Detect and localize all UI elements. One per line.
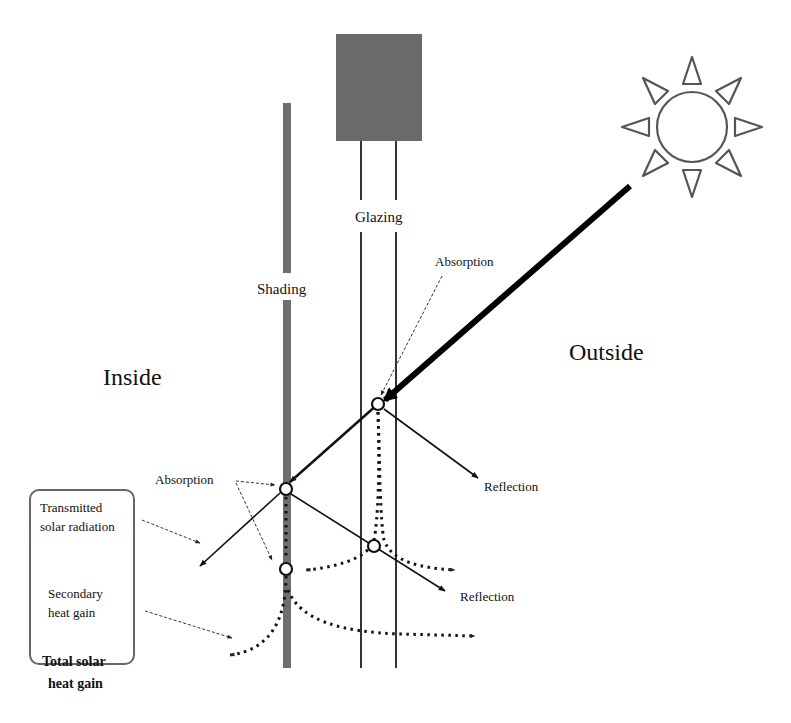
glazing-reflection-arrow [384, 409, 478, 478]
interaction-nodes [280, 398, 384, 575]
shading-secondary-node [280, 563, 292, 575]
absorption-glazing-label: Absorption [435, 254, 494, 269]
incident-solar-beam [385, 186, 630, 400]
glazing-node [372, 398, 384, 410]
transmitted-label-line1: Transmitted [40, 500, 103, 515]
total-label-line1: Total solar [42, 654, 106, 669]
glazing-frame [336, 34, 422, 141]
legend-pointers [142, 520, 232, 638]
glazing-label: Glazing [355, 209, 403, 225]
shading-node [280, 483, 292, 495]
transmitted-into-room-arrow [200, 493, 280, 566]
legend-box: Transmitted solar radiation Secondary he… [30, 490, 134, 664]
outside-label: Outside [569, 339, 644, 365]
absorption-shading-pointers [236, 481, 275, 560]
reflection-shading-label: Reflection [460, 589, 515, 604]
diagram-canvas: Glazing Shading [0, 0, 791, 723]
sun-icon [622, 57, 762, 197]
secondary-label-line1: Secondary [48, 586, 103, 601]
solar-heat-gain-diagram: Glazing Shading [0, 0, 791, 723]
reflection-glazing-label: Reflection [484, 479, 539, 494]
total-label-line2: heat gain [48, 676, 103, 691]
transmitted-beam [290, 404, 378, 482]
shading-label: Shading [257, 281, 307, 297]
absorption-shading-label: Absorption [155, 472, 214, 487]
glazing-secondary-node [368, 540, 380, 552]
inside-label: Inside [103, 364, 162, 390]
transmitted-label-line2: solar radiation [40, 519, 115, 534]
secondary-label-line2: heat gain [48, 605, 96, 620]
